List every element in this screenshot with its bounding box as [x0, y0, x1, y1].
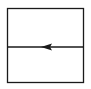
diagram	[0, 0, 91, 89]
outer-box	[8, 9, 84, 83]
